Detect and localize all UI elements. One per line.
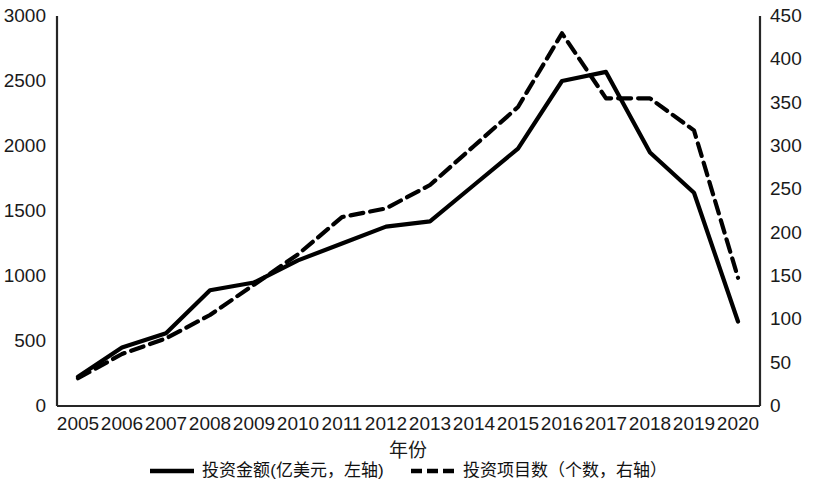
left-axis-tick-2500: 2500 xyxy=(0,71,46,90)
left-axis-tick-1000: 1000 xyxy=(0,266,46,285)
right-axis-tick-200: 200 xyxy=(770,223,816,242)
right-axis-tick-0: 0 xyxy=(770,396,816,415)
right-axis-tick-350: 350 xyxy=(770,93,816,112)
right-axis-tick-150: 150 xyxy=(770,266,816,285)
legend-item-project-count: 投资项目数（个数，右轴） xyxy=(410,462,667,480)
right-axis-tick-300: 300 xyxy=(770,136,816,155)
legend-label-project-count: 投资项目数（个数，右轴） xyxy=(463,462,667,480)
right-axis-tick-250: 250 xyxy=(770,179,816,198)
x-axis-title: 年份 xyxy=(0,441,816,461)
legend-label-investment-amount: 投资金额(亿美元，左轴) xyxy=(202,462,383,480)
left-axis-tick-3000: 3000 xyxy=(0,6,46,25)
series-line-2 xyxy=(78,33,738,378)
right-axis-tick-450: 450 xyxy=(770,6,816,25)
right-axis-tick-100: 100 xyxy=(770,309,816,328)
right-axis-tick-50: 50 xyxy=(770,353,816,372)
right-axis-tick-400: 400 xyxy=(770,49,816,68)
chart-legend: 投资金额(亿美元，左轴) 投资项目数（个数，右轴） xyxy=(0,462,816,480)
left-axis-tick-2000: 2000 xyxy=(0,136,46,155)
legend-item-investment-amount: 投资金额(亿美元，左轴) xyxy=(149,462,383,480)
legend-solid-line-icon xyxy=(149,466,195,476)
left-axis-tick-1500: 1500 xyxy=(0,201,46,220)
x-axis-tick-2020: 2020 xyxy=(708,414,768,433)
left-axis-tick-0: 0 xyxy=(0,396,46,415)
legend-dashed-line-icon xyxy=(410,466,456,476)
chart-container: 050010001500200025003000 050100150200250… xyxy=(0,0,816,489)
left-axis-tick-500: 500 xyxy=(0,331,46,350)
